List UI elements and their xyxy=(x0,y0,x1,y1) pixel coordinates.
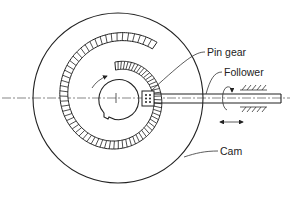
follower-rotation-arrow-icon xyxy=(223,87,233,110)
pin-gear-leader xyxy=(152,52,205,90)
cam-rotation-arrow-icon xyxy=(92,76,107,88)
cam-diagram: Pin gear Follower Cam xyxy=(0,0,292,198)
pin-gear-label: Pin gear xyxy=(207,46,247,58)
pin-gear-icon xyxy=(142,91,154,106)
cam-label: Cam xyxy=(220,145,242,157)
cam-leader xyxy=(184,151,218,157)
bearing-hatch-icon xyxy=(240,85,267,112)
follower-label: Follower xyxy=(224,66,264,78)
follower-rod xyxy=(154,94,281,103)
hub-icon xyxy=(99,80,139,120)
follower-leader xyxy=(206,72,222,94)
